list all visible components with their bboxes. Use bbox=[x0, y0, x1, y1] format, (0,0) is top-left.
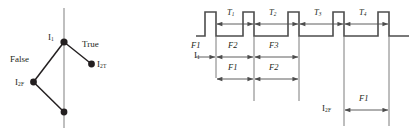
label-T1: T1 bbox=[227, 8, 235, 17]
edge-false-to-leaf bbox=[34, 82, 65, 112]
tree-node-leaf[interactable] bbox=[61, 109, 68, 116]
label-T3: T3 bbox=[314, 8, 322, 17]
tree-node-label-root: I1 bbox=[48, 33, 54, 43]
tree-node-false[interactable] bbox=[30, 79, 37, 86]
tree-node-root[interactable] bbox=[60, 38, 67, 45]
label-T4: T4 bbox=[359, 8, 367, 17]
tree-node-true[interactable] bbox=[88, 61, 95, 68]
label-F3-row1: F3 bbox=[269, 41, 278, 50]
guide-lines bbox=[216, 36, 389, 126]
label-T2: T2 bbox=[269, 8, 277, 17]
branch-label-false: False bbox=[10, 55, 29, 64]
edge-root-to-false bbox=[34, 42, 65, 82]
label-F2-row2: F2 bbox=[269, 63, 278, 72]
label-F1-row2: F1 bbox=[228, 63, 237, 72]
label-F1-row3: F1 bbox=[359, 94, 368, 103]
label-F1-row1: F1 bbox=[191, 41, 200, 50]
tree-node-label-true: I2T bbox=[97, 60, 107, 70]
label-F2-row1: F2 bbox=[228, 41, 237, 50]
timing-diagram-panel: T1 T2 T3 T4 I1 F1 F2 F3 F1 F2 I2F F1 bbox=[196, 0, 411, 133]
branch-label-true: True bbox=[82, 40, 99, 49]
tree-node-label-false: I2F bbox=[15, 78, 24, 88]
decision-tree-panel: I1 True False I2T I2F bbox=[0, 0, 196, 133]
figure-root: I1 True False I2T I2F bbox=[0, 0, 411, 133]
signal-label-i2f: I2F bbox=[322, 104, 331, 114]
signal-label-i1: I1 bbox=[194, 51, 200, 61]
